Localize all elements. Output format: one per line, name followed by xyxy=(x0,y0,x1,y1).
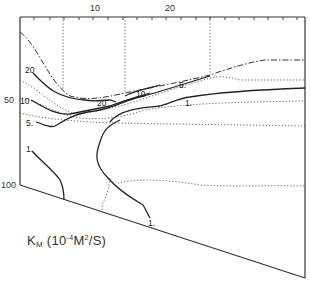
label-20-mid: 20 xyxy=(97,98,107,108)
contour-1-left xyxy=(32,151,64,200)
title-unit: M xyxy=(73,233,84,248)
title-close: /S) xyxy=(89,233,107,248)
dotted-isolines xyxy=(20,77,305,186)
vertical-dotted-lines xyxy=(63,17,210,212)
title-open: (10 xyxy=(43,233,67,248)
label-1-left: 1. xyxy=(26,144,33,154)
label-5-right: 5. xyxy=(179,80,186,90)
label-20-left: 20 xyxy=(25,65,35,75)
contour-1-mid xyxy=(97,142,150,218)
x-tick-20: 20 xyxy=(165,3,175,13)
title-sub: M xyxy=(36,240,43,249)
label-1-right: 1. xyxy=(185,98,192,108)
label-10-mid: 10 xyxy=(136,89,146,99)
y-tick-100: 100 xyxy=(1,180,16,190)
x-tick-10: 10 xyxy=(90,3,100,13)
label-10-left: 10 xyxy=(20,96,30,106)
solid-contours xyxy=(31,73,305,218)
title-k: K xyxy=(27,233,36,248)
chart-title: KM (10-4M2/S) xyxy=(27,233,106,249)
contour-1-link xyxy=(100,120,120,142)
y-tick-50: 50 xyxy=(4,95,14,105)
label-1-bottom: 1. xyxy=(148,218,155,228)
label-5-left: 5. xyxy=(26,118,33,128)
